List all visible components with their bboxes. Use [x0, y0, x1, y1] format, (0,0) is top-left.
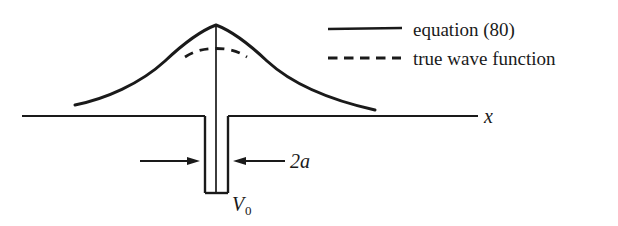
well-width-dimension-right-arrow — [233, 157, 285, 165]
legend-label-equation-80: equation (80) — [413, 19, 515, 41]
figure-container: 2a V 0 x equation (80) true wave functio… — [0, 0, 618, 226]
equation-80-curve — [75, 25, 375, 110]
well-depth-label-subscript: 0 — [245, 203, 252, 218]
wave-function-potential-well-figure: 2a V 0 x equation (80) true wave functio… — [0, 0, 618, 226]
well-width-label: 2a — [290, 150, 310, 172]
legend-entry-true-wave-function: true wave function — [328, 48, 556, 69]
legend-label-true-wave-function: true wave function — [413, 48, 556, 69]
x-axis-label: x — [483, 105, 493, 127]
legend: equation (80) true wave function — [328, 19, 556, 69]
well-depth-label: V 0 — [232, 193, 252, 218]
legend-entry-equation-80: equation (80) — [328, 19, 515, 41]
legend-swatch-solid-line — [328, 28, 402, 29]
well-width-dimension-left-arrow — [140, 157, 200, 165]
